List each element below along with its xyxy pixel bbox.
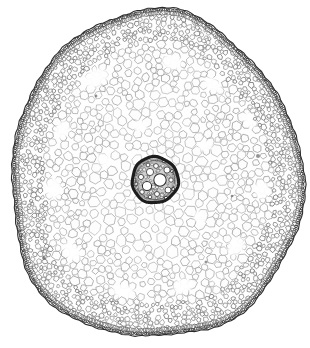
parenchyma-cell — [27, 204, 31, 207]
parenchyma-cell — [205, 296, 210, 300]
debris-speck — [231, 195, 234, 198]
parenchyma-cell — [248, 256, 253, 262]
parenchyma-cell — [192, 27, 196, 31]
parenchyma-cell — [140, 22, 144, 27]
pericycle-cell — [147, 192, 149, 194]
parenchyma-cell — [100, 171, 108, 179]
parenchyma-cell — [168, 318, 172, 322]
parenchyma-cell — [147, 29, 151, 33]
parenchyma-cell — [288, 195, 292, 198]
parenchyma-cell — [218, 132, 226, 139]
parenchyma-cell — [257, 107, 261, 111]
xylem-vessel — [154, 174, 166, 186]
parenchyma-cell — [39, 110, 43, 114]
parenchyma-cell — [170, 305, 174, 309]
parenchyma-cell — [193, 71, 202, 78]
parenchyma-cell — [250, 269, 254, 273]
pericycle-cell — [154, 172, 156, 174]
parenchyma-cell — [104, 54, 108, 58]
parenchyma-cell — [288, 175, 292, 179]
debris-speck — [42, 256, 46, 260]
parenchyma-cell — [264, 226, 267, 230]
pericycle-cell — [163, 192, 165, 195]
debris-speck — [256, 154, 260, 158]
parenchyma-cell — [181, 301, 185, 304]
parenchyma-cell — [30, 199, 33, 202]
parenchyma-cell — [277, 163, 281, 166]
parenchyma-cell — [77, 118, 83, 125]
epidermis-cell — [12, 173, 15, 175]
parenchyma-cell — [79, 291, 82, 294]
parenchyma-cell — [266, 223, 270, 226]
figure-root — [0, 0, 310, 348]
parenchyma-cell — [32, 116, 36, 120]
parenchyma-cell — [244, 185, 251, 192]
parenchyma-cell — [97, 275, 105, 284]
parenchyma-cell — [271, 234, 275, 238]
parenchyma-cell — [207, 55, 212, 60]
parenchyma-cell — [36, 218, 39, 222]
root-cross-section-micrograph — [0, 0, 310, 348]
parenchyma-cell — [150, 141, 159, 148]
parenchyma-cell — [61, 140, 69, 149]
parenchyma-cell — [269, 161, 272, 164]
xylem-vessel — [155, 192, 160, 197]
parenchyma-cell — [139, 38, 142, 41]
parenchyma-cell — [48, 271, 52, 274]
parenchyma-cell — [205, 287, 211, 294]
parenchyma-cell — [110, 200, 118, 209]
parenchyma-cell — [33, 155, 37, 160]
hypodermis-cell — [298, 177, 301, 180]
parenchyma-cell — [44, 96, 49, 100]
parenchyma-cell — [112, 306, 116, 311]
parenchyma-cell — [196, 305, 200, 310]
parenchyma-cell — [64, 293, 68, 296]
parenchyma-cell — [208, 188, 218, 199]
xylem-vessel — [138, 174, 143, 179]
parenchyma-cell — [52, 89, 56, 94]
parenchyma-cell — [267, 114, 271, 118]
parenchyma-cell — [278, 211, 282, 215]
epidermis-cell — [302, 177, 304, 179]
parenchyma-cell — [72, 144, 79, 150]
parenchyma-cell — [43, 89, 47, 93]
parenchyma-cell — [211, 44, 215, 49]
parenchyma-cell — [48, 89, 52, 93]
parenchyma-cell — [240, 266, 243, 269]
parenchyma-cell — [143, 311, 146, 314]
parenchyma-cell — [93, 47, 97, 51]
pericycle-cell — [167, 182, 169, 185]
parenchyma-cell — [242, 274, 246, 278]
parenchyma-cell — [72, 108, 79, 114]
parenchyma-cell — [285, 147, 289, 150]
parenchyma-cell — [23, 180, 27, 184]
parenchyma-cell — [247, 288, 251, 292]
parenchyma-cell — [25, 158, 29, 163]
parenchyma-cell — [155, 320, 159, 324]
parenchyma-cell — [193, 181, 203, 191]
parenchyma-cell — [40, 265, 43, 269]
xylem-vessel — [164, 167, 170, 173]
parenchyma-cell — [280, 151, 284, 155]
parenchyma-cell — [107, 273, 113, 279]
parenchyma-cell — [43, 272, 47, 277]
parenchyma-cell — [234, 96, 240, 102]
xylem-vessel — [154, 164, 159, 169]
parenchyma-cell — [170, 37, 173, 41]
parenchyma-cell — [35, 232, 40, 237]
parenchyma-cell — [241, 134, 249, 142]
debris-speck — [95, 95, 98, 98]
parenchyma-cell — [102, 305, 105, 309]
xylem-vessel — [142, 181, 151, 190]
parenchyma-cell — [23, 193, 27, 198]
parenchyma-cell — [52, 109, 56, 113]
xylem-vessel — [146, 168, 153, 175]
parenchyma-cell — [262, 252, 267, 256]
xylem-vessel — [169, 178, 173, 182]
parenchyma-cell — [224, 166, 232, 174]
parenchyma-cell — [136, 318, 139, 321]
parenchyma-cell — [24, 133, 28, 137]
xylem-vessel — [146, 163, 150, 167]
parenchyma-cell — [143, 37, 148, 43]
epidermis-cell — [301, 197, 303, 199]
